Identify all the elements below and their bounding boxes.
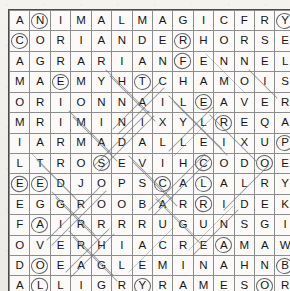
letter-cell[interactable]: R bbox=[50, 51, 70, 71]
letter-cell[interactable]: I bbox=[10, 133, 30, 153]
letter-cell[interactable]: Y bbox=[91, 72, 111, 92]
letter-cell[interactable]: M bbox=[71, 133, 91, 153]
letter-cell[interactable]: L bbox=[112, 11, 132, 31]
letter-cell[interactable]: D bbox=[132, 31, 152, 51]
letter-cell[interactable]: A bbox=[10, 276, 30, 291]
letter-cell[interactable]: A bbox=[91, 133, 111, 153]
letter-cell[interactable]: S bbox=[255, 31, 275, 51]
letter-cell[interactable]: C bbox=[152, 72, 172, 92]
letter-cell[interactable]: N bbox=[152, 51, 172, 71]
letter-cell[interactable]: O bbox=[91, 174, 111, 194]
letter-cell[interactable]: G bbox=[255, 215, 275, 235]
letter-cell[interactable]: O bbox=[71, 92, 91, 112]
letter-cell[interactable]: O bbox=[234, 72, 254, 92]
letter-cell[interactable]: R bbox=[50, 31, 70, 51]
letter-cell[interactable]: R bbox=[71, 235, 91, 255]
letter-cell[interactable]: A bbox=[214, 174, 234, 194]
letter-cell-circled[interactable]: E bbox=[193, 92, 213, 112]
letter-cell[interactable]: E bbox=[275, 153, 290, 173]
letter-cell[interactable]: A bbox=[214, 92, 234, 112]
letter-cell[interactable]: U bbox=[152, 215, 172, 235]
letter-cell[interactable]: A bbox=[214, 256, 234, 276]
letter-cell-circled[interactable]: O bbox=[255, 153, 275, 173]
letter-cell[interactable]: N bbox=[91, 92, 111, 112]
letter-cell[interactable]: D bbox=[112, 133, 132, 153]
letter-cell[interactable]: A bbox=[132, 235, 152, 255]
letter-cell-circled[interactable]: C bbox=[10, 31, 30, 51]
letter-cell[interactable]: A bbox=[275, 113, 290, 133]
letter-cell[interactable]: A bbox=[71, 256, 91, 276]
letter-cell-circled[interactable]: F bbox=[173, 51, 193, 71]
letter-cell[interactable]: E bbox=[193, 133, 213, 153]
letter-cell[interactable]: E bbox=[112, 153, 132, 173]
letter-cell[interactable]: E bbox=[255, 92, 275, 112]
letter-cell-circled[interactable]: Y bbox=[132, 276, 152, 291]
letter-cell[interactable]: R bbox=[71, 194, 91, 214]
letter-cell[interactable]: X bbox=[234, 133, 254, 153]
letter-cell[interactable]: M bbox=[10, 113, 30, 133]
letter-cell[interactable]: I bbox=[50, 92, 70, 112]
letter-cell[interactable]: I bbox=[214, 194, 234, 214]
letter-cell[interactable]: A bbox=[173, 276, 193, 291]
letter-cell-circled[interactable]: L bbox=[193, 174, 213, 194]
letter-cell[interactable]: I bbox=[50, 11, 70, 31]
letter-cell-circled[interactable]: E bbox=[30, 174, 50, 194]
letter-cell[interactable]: R bbox=[275, 276, 290, 291]
letter-cell[interactable]: G bbox=[30, 51, 50, 71]
letter-cell[interactable]: A bbox=[91, 31, 111, 51]
letter-cell-circled[interactable]: S bbox=[91, 153, 111, 173]
letter-cell[interactable]: O bbox=[10, 235, 30, 255]
letter-cell[interactable]: A bbox=[132, 51, 152, 71]
letter-cell[interactable]: R bbox=[50, 133, 70, 153]
letter-cell[interactable]: E bbox=[255, 194, 275, 214]
letter-cell[interactable]: L bbox=[50, 276, 70, 291]
letter-cell[interactable]: G bbox=[91, 256, 111, 276]
letter-cell[interactable]: I bbox=[50, 113, 70, 133]
letter-cell[interactable]: J bbox=[71, 174, 91, 194]
letter-cell[interactable]: V bbox=[234, 92, 254, 112]
letter-cell[interactable]: M bbox=[71, 72, 91, 92]
letter-cell[interactable]: N bbox=[193, 256, 213, 276]
letter-cell[interactable]: E bbox=[193, 235, 213, 255]
letter-cell[interactable]: N bbox=[112, 113, 132, 133]
letter-cell[interactable]: R bbox=[30, 92, 50, 112]
letter-cell[interactable]: L bbox=[275, 51, 290, 71]
letter-cell[interactable]: E bbox=[132, 256, 152, 276]
letter-cell-circled[interactable]: A bbox=[214, 235, 234, 255]
letter-cell[interactable]: R bbox=[132, 215, 152, 235]
letter-cell[interactable]: R bbox=[173, 235, 193, 255]
letter-cell-circled[interactable]: E bbox=[10, 174, 30, 194]
letter-cell[interactable]: I bbox=[91, 113, 111, 133]
letter-cell[interactable]: A bbox=[10, 51, 30, 71]
letter-cell[interactable]: N bbox=[214, 51, 234, 71]
letter-cell[interactable]: O bbox=[71, 153, 91, 173]
letter-cell[interactable]: I bbox=[132, 113, 152, 133]
letter-cell[interactable]: R bbox=[71, 215, 91, 235]
letter-cell[interactable]: I bbox=[214, 133, 234, 153]
letter-cell[interactable]: A bbox=[71, 51, 91, 71]
letter-cell[interactable]: I bbox=[193, 11, 213, 31]
letter-cell[interactable]: I bbox=[71, 276, 91, 291]
letter-cell[interactable]: R bbox=[255, 11, 275, 31]
letter-cell[interactable]: E bbox=[10, 194, 30, 214]
letter-cell[interactable]: O bbox=[214, 31, 234, 51]
letter-cell[interactable]: I bbox=[71, 31, 91, 51]
letter-cell[interactable]: R bbox=[275, 92, 290, 112]
letter-cell[interactable]: I bbox=[112, 235, 132, 255]
letter-cell-circled[interactable]: A bbox=[30, 215, 50, 235]
letter-cell-circled[interactable]: N bbox=[30, 11, 50, 31]
letter-cell[interactable]: H bbox=[91, 235, 111, 255]
letter-cell[interactable]: R bbox=[50, 153, 70, 173]
letter-cell-circled[interactable]: O bbox=[255, 276, 275, 291]
letter-cell-circled[interactable]: B bbox=[275, 256, 290, 276]
letter-cell[interactable]: A bbox=[30, 72, 50, 92]
letter-cell[interactable]: P bbox=[112, 174, 132, 194]
letter-cell[interactable]: O bbox=[112, 194, 132, 214]
letter-cell[interactable]: A bbox=[193, 72, 213, 92]
letter-cell[interactable]: A bbox=[173, 174, 193, 194]
letter-cell[interactable]: C bbox=[152, 235, 172, 255]
letter-cell[interactable]: N bbox=[214, 215, 234, 235]
letter-cell[interactable]: H bbox=[173, 153, 193, 173]
letter-cell[interactable]: I bbox=[275, 215, 290, 235]
letter-cell[interactable]: N bbox=[112, 31, 132, 51]
